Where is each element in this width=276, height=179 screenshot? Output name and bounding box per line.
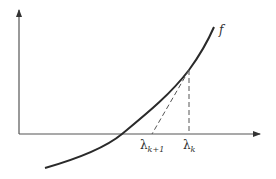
newton-method-diagram: f λk+1 λk bbox=[0, 0, 276, 179]
label-lambda-k1: λk+1 bbox=[140, 138, 164, 154]
label-lambda-k: λk bbox=[183, 138, 196, 154]
curve-label-f: f bbox=[218, 23, 226, 37]
dashed-tangent-line bbox=[152, 70, 189, 134]
